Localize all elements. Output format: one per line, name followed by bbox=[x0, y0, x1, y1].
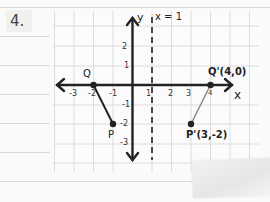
point-q-label: Q bbox=[83, 68, 91, 79]
y-tick: 1 bbox=[124, 61, 129, 70]
y-tick: 2 bbox=[122, 42, 127, 51]
point-p bbox=[110, 121, 116, 127]
point-p-label: P bbox=[108, 129, 114, 140]
point-q bbox=[90, 82, 96, 88]
worksheet-page: 4. bbox=[0, 0, 270, 202]
y-axis-label: y bbox=[137, 11, 144, 24]
x-tick: 1 bbox=[146, 89, 151, 98]
grid-lines bbox=[53, 11, 259, 172]
x-tick: -1 bbox=[109, 89, 117, 98]
x-tick: 4 bbox=[208, 89, 212, 97]
x-tick: 3 bbox=[186, 89, 191, 98]
point-q-prime-label: Q'(4,0) bbox=[208, 66, 246, 77]
x-axis bbox=[57, 79, 232, 91]
x-tick: -3 bbox=[69, 89, 77, 98]
x-tick: 2 bbox=[168, 89, 173, 98]
point-p-prime-label: P'(3,-2) bbox=[186, 129, 227, 140]
x-tick: -2 bbox=[88, 89, 96, 98]
y-tick: -2 bbox=[120, 119, 128, 128]
tape-strip bbox=[191, 158, 270, 199]
y-axis bbox=[127, 18, 138, 160]
reflection-line-label: x = 1 bbox=[155, 11, 182, 22]
y-tick: -3 bbox=[120, 138, 128, 147]
point-q-prime bbox=[207, 82, 213, 88]
x-axis-label: x bbox=[234, 88, 241, 102]
point-p-prime bbox=[188, 121, 194, 127]
y-tick: -1 bbox=[122, 100, 130, 109]
